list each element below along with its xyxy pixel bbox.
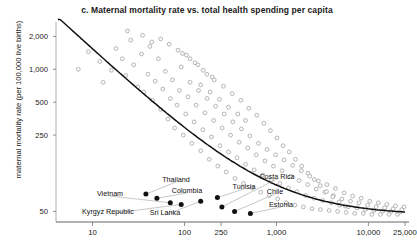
point-label-thailand: Thailand <box>162 175 190 184</box>
point-label-chile: Chile <box>267 187 283 196</box>
trend-curve <box>58 20 405 213</box>
point-label-costa-rica: Costa Rica <box>259 172 294 181</box>
point-label-kyrgyz-republic: Kyrgyz Republic <box>82 207 134 216</box>
point-label-sri-lanka: Sri Lanka <box>150 208 180 217</box>
point-label-tunisia: Tunisia <box>233 182 256 191</box>
point-label-estonia: Estonia <box>269 200 293 209</box>
point-label-vietnam: Vietnam <box>97 189 123 198</box>
point-label-colombia: Colombia <box>172 186 202 195</box>
